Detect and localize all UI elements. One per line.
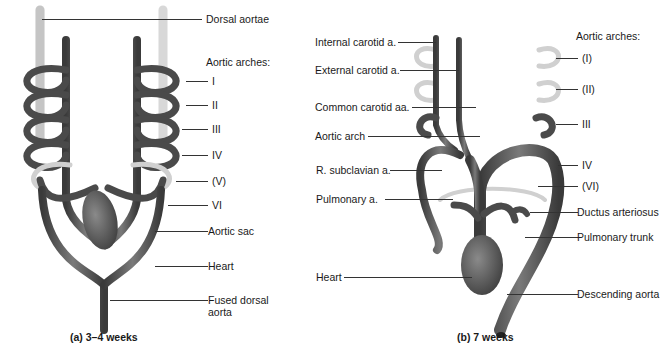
heart-a [77, 187, 123, 253]
label-ductus-arteriosus: Ductus arteriosus [577, 206, 659, 218]
leader-pulmonary-a [385, 199, 453, 200]
label-dorsal-aortae: Dorsal aortae [206, 13, 269, 25]
leader-arch-III-b [556, 124, 578, 125]
label-arch-VI-a: VI [212, 199, 222, 211]
leader-aortic-arch [368, 136, 480, 137]
leader-arch-VI [168, 205, 208, 206]
leader-descending-aorta [507, 294, 578, 295]
label-pulmonary-a: Pulmonary a. [316, 193, 378, 205]
leader-common-carotid [412, 107, 476, 108]
label-arch-I-b: (I) [582, 52, 592, 64]
label-descending-aorta: Descending aorta [577, 288, 659, 300]
label-aortic-sac: Aortic sac [208, 225, 254, 237]
label-arch-IV-b: IV [582, 159, 592, 171]
caption-panel-b: (b) 7 weeks [457, 331, 514, 343]
leader-arch-I-b [556, 58, 578, 59]
label-arch-II-b: (II) [582, 83, 595, 95]
leader-heart-a [155, 266, 208, 267]
aortic-arch-illustrations [0, 0, 669, 353]
label-arch-IV-a: IV [212, 149, 222, 161]
leader-heart-b [344, 277, 472, 278]
label-r-subclavian: R. subclavian a. [316, 164, 391, 176]
label-arch-II-a: II [212, 99, 218, 111]
leader-arch-I [186, 81, 208, 82]
leader-arch-IV [182, 155, 208, 156]
leader-external-carotid [400, 70, 459, 71]
leader-pulmonary-trunk [525, 237, 578, 238]
leader-arch-V [176, 181, 208, 182]
leader-arch-IV-b [558, 165, 578, 166]
label-aortic-arches-a: Aortic arches: [206, 56, 270, 68]
caption-panel-a: (a) 3–4 weeks [70, 331, 138, 343]
label-pulmonary-trunk: Pulmonary trunk [577, 231, 653, 243]
panel-a-diagram [27, 10, 176, 330]
heart-b [461, 235, 503, 295]
leader-fused-aorta [110, 300, 208, 301]
label-arch-III-b: III [582, 118, 591, 130]
label-arch-V-a: (V) [212, 175, 226, 187]
label-arch-VI-b: (VI) [582, 180, 599, 192]
label-common-carotid: Common carotid aa. [315, 101, 410, 113]
label-aortic-arch: Aortic arch [315, 130, 365, 142]
label-fused-aorta-2: aorta [208, 306, 232, 318]
label-internal-carotid: Internal carotid a. [315, 36, 396, 48]
label-heart-b: Heart [316, 271, 342, 283]
leader-ductus [530, 212, 578, 213]
leader-arch-III [182, 129, 208, 130]
label-fused-aorta-1: Fused dorsal [208, 294, 269, 306]
leader-aortic-sac [155, 231, 208, 232]
label-heart-a: Heart [208, 260, 234, 272]
label-aortic-arches-b: Aortic arches: [576, 30, 640, 42]
leader-dorsal-aortae [42, 19, 202, 20]
label-arch-III-a: III [212, 123, 221, 135]
label-arch-I-a: I [212, 75, 215, 87]
leader-r-subclavian [390, 170, 442, 171]
leader-arch-II [186, 105, 208, 106]
leader-internal-carotid [398, 42, 436, 43]
label-external-carotid: External carotid a. [315, 64, 400, 76]
leader-arch-VI-b [538, 186, 578, 187]
leader-arch-II-b [556, 89, 578, 90]
